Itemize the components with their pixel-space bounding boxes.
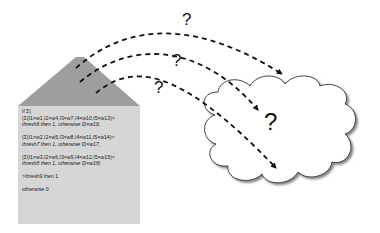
rule-line: otherwise 0 [22, 186, 49, 192]
house-rule-text: if Σ( (Σ(I1×w1,I2×w4,I3×w7,I4×w10,I5×w13… [22, 108, 140, 199]
rule-line: >thresh9 then 1 [22, 173, 58, 179]
arrow-middle-question-label: ? [172, 51, 181, 71]
arrow-bottom-question-label: ? [154, 78, 163, 98]
rule-line: thresh6 then 1, otherwise 0)×w16, [22, 121, 100, 127]
arrow-top-question-label: ? [182, 10, 191, 30]
rule-line: thresh7 then 1, otherwise 0)×w17, [22, 141, 100, 147]
rule-line: if Σ( [22, 108, 31, 114]
cloud-question-label: ? [264, 108, 277, 136]
cloud-shape [204, 76, 355, 183]
rule-line: (Σ(I1×w1,I2×w4,I3×w7,I4×w10,I5×w13)> [22, 115, 115, 121]
rule-line: thresh8 then 1, otherwise 0)×w18) [22, 160, 101, 166]
rule-line: (Σ(I1×w3,I2×w6,I3×w9,I4×w12,I5×w15)> [22, 154, 115, 160]
rule-line: (Σ(I1×w2,I2×w5,I3×w8,I4×w11,I5×w14)> [22, 134, 115, 140]
